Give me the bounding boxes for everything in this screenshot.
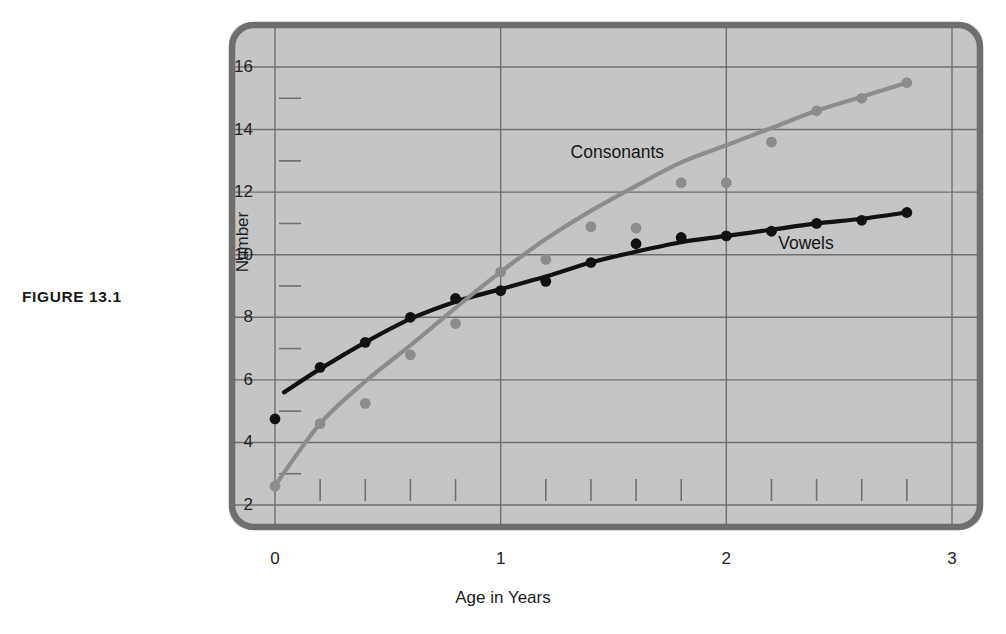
y-tick-label: 16 xyxy=(207,58,253,75)
x-axis-title: Age in Years xyxy=(0,588,1006,608)
y-tick-label: 10 xyxy=(207,246,253,263)
x-tick-label: 2 xyxy=(706,550,746,567)
series-label-vowels: Vowels xyxy=(778,233,833,254)
y-tick-label: 2 xyxy=(207,496,253,513)
y-tick-label: 8 xyxy=(207,308,253,325)
y-tick-label: 12 xyxy=(207,183,253,200)
chart-panel xyxy=(229,22,983,530)
chart-plot xyxy=(0,0,1006,634)
figure-root: FIGURE 13.1 Number Age in Years 24681012… xyxy=(0,0,1006,634)
y-tick-label: 14 xyxy=(207,121,253,138)
x-tick-label: 0 xyxy=(255,550,295,567)
x-tick-label: 3 xyxy=(932,550,972,567)
x-tick-label: 1 xyxy=(481,550,521,567)
y-tick-label: 6 xyxy=(207,371,253,388)
y-tick-label: 4 xyxy=(207,433,253,450)
figure-caption: FIGURE 13.1 xyxy=(22,288,122,306)
series-label-consonants: Consonants xyxy=(571,142,664,163)
